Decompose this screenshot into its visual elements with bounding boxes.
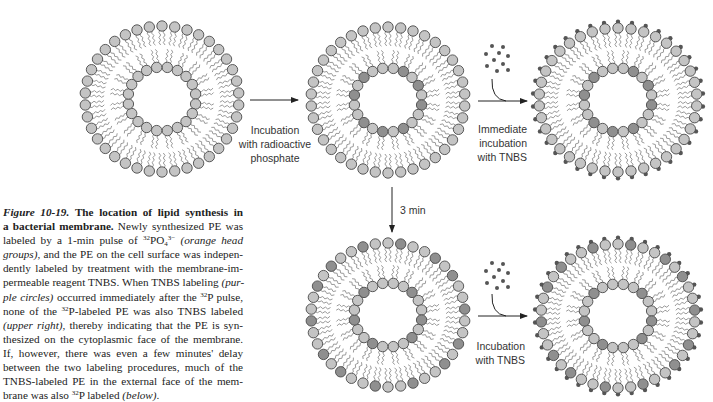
fatty-acid-tail: [567, 323, 581, 327]
head-group-icon: [564, 38, 574, 48]
fatty-acid-tail: [102, 59, 115, 67]
head-group-labeled-icon: [416, 100, 426, 110]
head-group-icon: [182, 25, 192, 35]
fatty-acid-tail: [566, 310, 580, 313]
fatty-acid-tail: [446, 321, 461, 323]
tnbs-molecule-icon: [485, 64, 489, 68]
head-group-icon: [457, 113, 467, 123]
phospholipid-32P-labeled: [395, 239, 406, 263]
phospholipid: [162, 49, 173, 73]
fatty-acid-tail: [395, 368, 399, 383]
caption-line: between the two labeling procedures, muc…: [3, 360, 243, 374]
fatty-acid-tail: [391, 351, 395, 365]
head-group-icon: [547, 55, 557, 65]
head-group-icon: [646, 90, 656, 100]
phospholipid-32P-labeled: [625, 237, 636, 265]
phospholipid: [625, 152, 636, 179]
fatty-acid-tail: [643, 343, 654, 352]
head-group-icon: [597, 66, 607, 76]
head-group-icon: [214, 143, 224, 153]
fatty-acid-tail: [423, 44, 432, 56]
phospholipid: [535, 326, 562, 339]
fatty-acid-tail: [592, 365, 597, 380]
fatty-acid-tail: [317, 110, 331, 115]
vesicle-delayed-TNBS: [533, 236, 703, 397]
head-group-icon: [579, 306, 589, 316]
head-group-icon: [419, 247, 429, 257]
head-group-icon: [600, 166, 610, 176]
fatty-acid-tail: [318, 81, 333, 85]
fatty-acid-tail: [543, 106, 558, 109]
head-group-icon: [541, 124, 551, 134]
head-group-icon: [349, 305, 359, 315]
head-group-labeled-icon: [588, 243, 598, 253]
fatty-acid-tail: [374, 367, 377, 382]
phospholipid: [618, 342, 629, 365]
vesicle-after-32P-pulse: [306, 22, 470, 178]
phospholipid: [607, 50, 618, 73]
head-group-icon: [555, 144, 565, 154]
fatty-acid-tail: [220, 105, 235, 107]
phospholipid: [600, 152, 611, 180]
head-group-labeled-icon: [408, 378, 418, 388]
fatty-acid-tail: [395, 248, 398, 263]
head-group-labeled-icon: [306, 316, 316, 326]
head-group-icon: [326, 45, 336, 55]
fatty-acid-tail: [615, 369, 617, 384]
phospholipid: [625, 21, 636, 49]
fatty-acid-tail: [389, 154, 391, 169]
caption-line: If, however, there was even a few minute…: [3, 346, 243, 360]
head-group-icon: [626, 24, 636, 34]
fatty-acid-tail: [607, 267, 611, 281]
head-group-icon: [234, 88, 244, 98]
head-group-icon: [358, 26, 368, 36]
fatty-acid-tail: [373, 248, 377, 263]
caption-line: (upper right), thereby indicating that t…: [3, 318, 243, 332]
head-group-icon: [383, 22, 393, 32]
fatty-acid-tail: [674, 297, 688, 302]
phospholipid: [566, 306, 589, 317]
fatty-acid-tail: [561, 56, 573, 66]
fatty-acid-tail: [547, 326, 561, 331]
head-group-icon: [687, 293, 697, 303]
fatty-acid-tail: [426, 309, 440, 313]
head-group-icon: [566, 254, 576, 264]
fatty-acid-tail: [656, 94, 670, 98]
phospholipid: [144, 152, 155, 176]
fatty-acid-tail: [385, 154, 387, 169]
head-group-labeled-icon: [670, 360, 680, 370]
fatty-acid-tail: [608, 153, 611, 168]
fatty-acid-tail: [151, 50, 155, 64]
phospholipid: [618, 50, 629, 74]
head-group-icon: [685, 66, 695, 76]
head-group-labeled-icon: [336, 367, 346, 377]
fatty-acid-tail: [426, 94, 440, 98]
phospholipid-32P-labeled: [646, 316, 669, 327]
tnbs-cluster-top: [484, 44, 510, 73]
fatty-acid-tail: [378, 248, 382, 263]
phospholipid: [580, 333, 599, 353]
label-immediate-incubation-tnbs: Immediate incubation with TNBS: [477, 123, 528, 163]
head-group-icon: [613, 383, 623, 393]
fatty-acid-tail: [199, 88, 213, 92]
head-group-icon: [534, 89, 544, 99]
fatty-acid-tail: [392, 50, 395, 64]
vesicle-after-3-min: [306, 238, 470, 392]
fatty-acid-tail: [676, 322, 691, 324]
fatty-acid-tail: [615, 248, 617, 263]
head-group-icon: [453, 66, 463, 76]
head-group-icon: [618, 126, 628, 136]
head-group-icon: [460, 101, 470, 111]
head-group-icon: [187, 79, 197, 89]
fatty-acid-tail: [366, 250, 372, 264]
fatty-acid-tail: [345, 358, 354, 370]
head-group-labeled-icon: [626, 240, 636, 250]
tnbs-molecule-icon: [490, 44, 494, 48]
fatty-acid-tail: [676, 318, 691, 320]
phospholipid: [377, 265, 388, 288]
fatty-acid-tail: [640, 36, 645, 51]
head-group-icon: [683, 282, 693, 292]
head-group-icon: [430, 367, 440, 377]
fatty-acid-tail: [413, 342, 424, 351]
head-group-icon: [583, 325, 593, 335]
